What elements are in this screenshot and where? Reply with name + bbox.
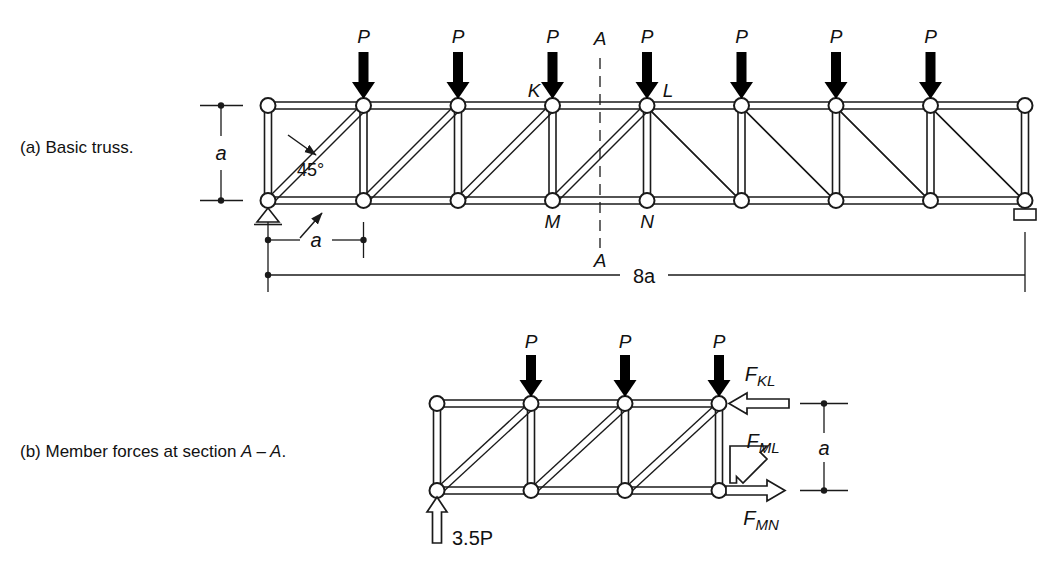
fbd-load-labels: P P P — [525, 331, 726, 352]
load-label-7: P — [924, 26, 937, 47]
fbd-load-label-1: P — [525, 331, 538, 352]
reaction-arrow: 3.5P — [427, 497, 493, 549]
fbd-dimension-height-a: a — [800, 400, 848, 493]
fbd-top-chord — [437, 400, 719, 407]
load-label-3: P — [546, 26, 559, 47]
section-label-top: A — [593, 28, 607, 49]
load-label-4: P — [641, 26, 654, 47]
fbd-load-arrows — [520, 355, 731, 397]
force-arrow-fkl: FKL — [729, 363, 789, 414]
dimension-panel-a: a — [265, 222, 367, 258]
fbd-load-arrow-1 — [520, 355, 543, 397]
load-arrow-2 — [447, 52, 470, 99]
load-label-2: P — [452, 26, 465, 47]
node-label-m: M — [545, 211, 561, 232]
angle-annotation: 45° — [288, 135, 324, 238]
dimension-span-8a: 8a — [265, 256, 1025, 292]
bottom-nodes — [261, 193, 1033, 208]
part-b-fbd: P P P 3.5P FKL FML FMN — [427, 331, 848, 549]
fbd-load-label-2: P — [619, 331, 632, 352]
load-arrow-6 — [825, 52, 848, 99]
load-arrow-7 — [919, 52, 942, 99]
fbd-top-nodes — [430, 396, 727, 411]
diagonal-members-left — [270, 105, 649, 201]
fbd-load-arrow-2 — [614, 355, 637, 397]
force-label-fmn: FMN — [743, 507, 779, 533]
fbd-dimension-label-height: a — [818, 437, 829, 459]
top-nodes — [261, 98, 1033, 113]
part-a-truss: P P P P P P P A A K L M N — [200, 26, 1036, 292]
node-label-n: N — [640, 211, 654, 232]
figure-root: (a) Basic truss. (b) Member forces at se… — [0, 0, 1059, 563]
diagonal-members-right — [645, 105, 1025, 201]
fbd-diagonal-members — [439, 403, 722, 491]
vertical-members — [265, 105, 1029, 201]
load-arrows — [352, 52, 942, 99]
fbd-bottom-nodes — [430, 483, 727, 498]
force-label-fkl: FKL — [745, 363, 776, 389]
leader-diagonal — [288, 135, 316, 155]
load-arrow-4 — [636, 52, 659, 99]
dimension-label-span: 8a — [633, 265, 656, 287]
section-label-bottom: A — [593, 250, 607, 271]
force-arrow-fml: FML — [730, 430, 780, 483]
fbd-bottom-chord — [437, 487, 719, 494]
node-label-l: L — [663, 80, 674, 101]
node-label-k: K — [528, 80, 542, 101]
roller-support-right — [1014, 209, 1036, 256]
load-label-6: P — [830, 26, 843, 47]
section-line-a-a: A A — [593, 28, 607, 271]
force-arrow-fmn: FMN — [726, 480, 785, 533]
load-arrow-3 — [541, 52, 564, 99]
dimension-label-panel: a — [310, 229, 321, 251]
load-arrow-1 — [352, 52, 375, 99]
fbd-load-label-3: P — [713, 331, 726, 352]
load-arrow-5 — [730, 52, 753, 99]
dimension-label-height: a — [215, 142, 226, 164]
truss-diagram: .memb { stroke: #1a1a1a; stroke-width: 1… — [0, 0, 1059, 563]
dimension-height-a: a — [200, 102, 243, 203]
load-labels: P P P P P P P — [357, 26, 937, 47]
load-label-5: P — [735, 26, 748, 47]
fbd-load-arrow-3 — [708, 355, 731, 397]
load-label-1: P — [357, 26, 370, 47]
reaction-label: 3.5P — [452, 527, 493, 549]
angle-label: 45° — [297, 160, 324, 180]
